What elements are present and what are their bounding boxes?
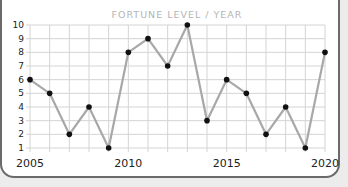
- data-point: [244, 91, 250, 97]
- y-axis-ticks: 12345678910: [13, 20, 25, 153]
- data-point: [224, 77, 230, 83]
- data-point: [27, 77, 33, 83]
- data-point: [283, 104, 289, 110]
- data-point: [263, 132, 269, 138]
- x-tick-label: 2010: [114, 157, 142, 170]
- data-point: [67, 132, 73, 138]
- y-tick-label: 1: [18, 143, 24, 153]
- data-point: [322, 50, 328, 56]
- y-tick-label: 8: [18, 47, 24, 57]
- data-point: [185, 22, 191, 28]
- data-point: [86, 104, 92, 110]
- data-point: [204, 118, 210, 124]
- y-tick-label: 6: [18, 75, 24, 85]
- x-tick-label: 2015: [213, 157, 241, 170]
- x-axis-ticks: 2005201020152020: [16, 157, 339, 170]
- x-tick-label: 2005: [16, 157, 44, 170]
- y-tick-label: 3: [18, 116, 24, 126]
- chart-title: FORTUNE LEVEL / YEAR: [112, 9, 243, 20]
- y-tick-label: 10: [13, 20, 25, 30]
- y-tick-label: 2: [18, 129, 24, 139]
- data-point: [47, 91, 53, 97]
- data-point: [106, 145, 112, 151]
- y-tick-label: 9: [18, 34, 24, 44]
- data-point: [145, 36, 151, 42]
- x-tick-label: 2020: [311, 157, 339, 170]
- data-point: [303, 145, 309, 151]
- data-point: [126, 50, 132, 56]
- fortune-line-series: [30, 25, 325, 148]
- y-tick-label: 4: [18, 102, 24, 112]
- y-tick-label: 5: [18, 88, 24, 98]
- fortune-line-chart: FORTUNE LEVEL / YEAR 12345678910 2005201…: [0, 0, 348, 187]
- y-tick-label: 7: [18, 61, 24, 71]
- data-point: [165, 63, 171, 69]
